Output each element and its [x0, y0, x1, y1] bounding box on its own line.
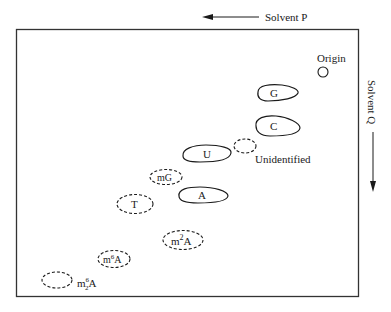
- solvent-p-arrow: [202, 14, 259, 20]
- spot-t: T: [117, 195, 153, 214]
- spot-c: C: [256, 116, 300, 136]
- svg-text:C: C: [270, 120, 277, 132]
- m62a-label: m62A: [77, 276, 97, 292]
- spot-g: G: [258, 85, 298, 101]
- svg-text:T: T: [131, 198, 138, 210]
- svg-text:G: G: [270, 87, 278, 99]
- svg-text:mG: mG: [157, 172, 172, 183]
- spot-u: U: [183, 145, 231, 162]
- arrowhead-left-icon: [202, 14, 213, 20]
- spot-a: A: [179, 187, 228, 203]
- spot-m2a: m2A: [163, 231, 203, 250]
- origin-spot: [318, 67, 328, 77]
- spot-mg: mG: [150, 170, 182, 185]
- svg-text:A: A: [198, 189, 206, 201]
- chromatogram-diagram: Solvent P Solvent Q Origin G C U Unident…: [0, 0, 391, 312]
- solvent-q-label: Solvent Q: [366, 80, 378, 124]
- spot-m6a: m6A: [98, 251, 130, 268]
- svg-text:U: U: [203, 148, 211, 160]
- arrowhead-down-icon: [370, 181, 376, 192]
- spot-unidentified: [234, 139, 256, 153]
- origin-label: Origin: [317, 52, 346, 64]
- svg-text:m6A: m6A: [103, 253, 122, 265]
- svg-text:m2A: m2A: [171, 233, 192, 247]
- spot-m62a: [42, 272, 72, 288]
- solvent-q-arrow: [370, 132, 376, 192]
- solvent-p-label: Solvent P: [265, 11, 307, 23]
- unidentified-label: Unidentified: [255, 153, 311, 165]
